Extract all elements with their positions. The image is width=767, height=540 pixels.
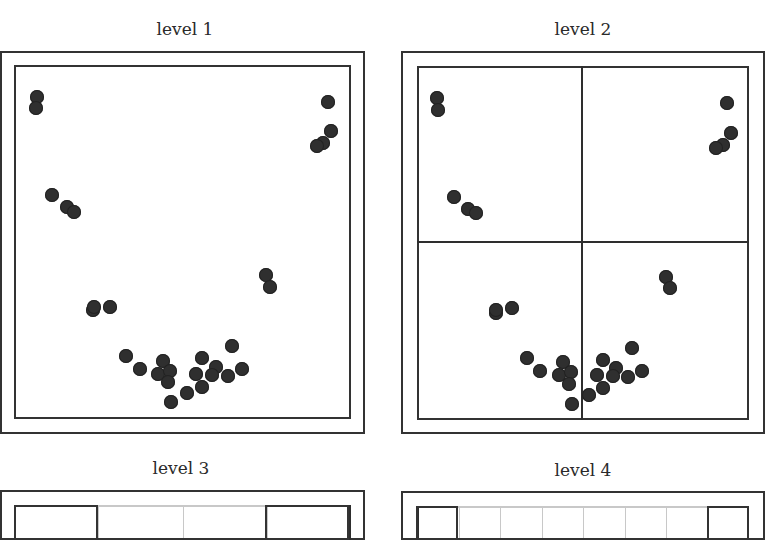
data-point bbox=[189, 367, 203, 381]
data-point bbox=[520, 351, 534, 365]
data-point bbox=[582, 388, 596, 402]
data-point bbox=[709, 141, 723, 155]
data-point bbox=[161, 375, 175, 389]
data-point bbox=[720, 96, 734, 110]
data-point bbox=[565, 397, 579, 411]
data-point bbox=[447, 190, 461, 204]
data-point bbox=[590, 368, 604, 382]
data-point bbox=[67, 205, 81, 219]
panel-title-level-3: level 3 bbox=[81, 458, 281, 478]
panel-title-level-2: level 2 bbox=[483, 19, 683, 39]
data-point bbox=[195, 351, 209, 365]
inner-edge-right bbox=[349, 505, 351, 540]
data-point bbox=[45, 188, 59, 202]
data-point bbox=[489, 303, 503, 317]
data-point bbox=[533, 364, 547, 378]
highlighted-cell bbox=[707, 506, 749, 540]
data-point bbox=[596, 381, 610, 395]
data-point bbox=[119, 349, 133, 363]
data-point bbox=[635, 364, 649, 378]
quadrant-divider-vertical bbox=[581, 66, 583, 420]
data-point bbox=[310, 139, 324, 153]
data-point bbox=[195, 380, 209, 394]
data-point bbox=[103, 300, 117, 314]
data-point bbox=[621, 370, 635, 384]
panel-title-level-1: level 1 bbox=[85, 19, 285, 39]
data-point bbox=[606, 369, 620, 383]
highlighted-cell bbox=[265, 505, 349, 540]
data-point bbox=[321, 95, 335, 109]
data-point bbox=[205, 368, 219, 382]
panel-inner-frame-level-2 bbox=[417, 66, 749, 420]
data-point bbox=[505, 301, 519, 315]
data-point bbox=[625, 341, 639, 355]
highlighted-cell bbox=[416, 506, 458, 540]
data-point bbox=[596, 353, 610, 367]
data-point bbox=[164, 395, 178, 409]
data-point bbox=[133, 362, 147, 376]
data-point bbox=[235, 362, 249, 376]
quadrant-divider-horizontal bbox=[417, 241, 749, 243]
data-point bbox=[431, 103, 445, 117]
data-point bbox=[469, 206, 483, 220]
data-point bbox=[221, 369, 235, 383]
data-point bbox=[263, 280, 277, 294]
panel-inner-frame-level-1 bbox=[14, 65, 351, 419]
data-point bbox=[87, 300, 101, 314]
panel-title-level-4: level 4 bbox=[483, 460, 683, 480]
data-point bbox=[180, 386, 194, 400]
data-point bbox=[225, 339, 239, 353]
data-point bbox=[562, 377, 576, 391]
highlighted-cell bbox=[14, 505, 98, 540]
data-point bbox=[29, 101, 43, 115]
data-point bbox=[663, 281, 677, 295]
